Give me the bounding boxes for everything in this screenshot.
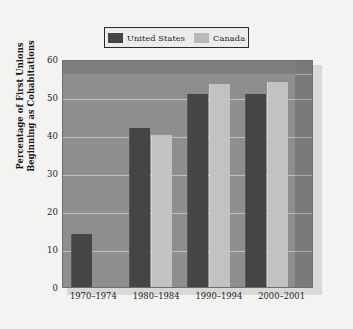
- legend-swatch-canada: [194, 33, 209, 43]
- y-axis-ticks: 60 50 40 30 20 10 0: [28, 55, 58, 295]
- legend-label-united-states: United States: [127, 33, 185, 43]
- bar-group-2000-2001: [244, 61, 288, 287]
- y-tick-50: 50: [47, 93, 58, 103]
- legend-label-canada: Canada: [213, 33, 245, 43]
- x-tick-1990-1994: 1990–1994: [191, 291, 246, 301]
- bar-united-states-1980-1984[interactable]: [129, 128, 150, 287]
- bar-groups: [63, 61, 295, 287]
- chart-legend: United States Canada: [104, 27, 249, 48]
- y-tick-20: 20: [47, 207, 58, 217]
- x-axis-ticks: 1970–1974 1980–1984 1990–1994 2000–2001: [62, 291, 313, 301]
- y-tick-40: 40: [47, 131, 58, 141]
- bar-group-1980-1984: [128, 61, 172, 287]
- plot-right-wall-panel: [295, 61, 312, 287]
- bar-united-states-1990-1994[interactable]: [187, 94, 208, 287]
- y-tick-10: 10: [47, 245, 58, 255]
- bar-canada-2000-2001[interactable]: [267, 82, 288, 287]
- y-tick-0: 0: [53, 283, 58, 293]
- y-tick-60: 60: [47, 55, 58, 65]
- y-tick-30: 30: [47, 169, 58, 179]
- bar-canada-1980-1984[interactable]: [151, 135, 172, 287]
- legend-item-united-states: United States: [108, 33, 185, 43]
- bar-canada-1990-1994[interactable]: [209, 84, 230, 287]
- bar-united-states-2000-2001[interactable]: [245, 94, 266, 287]
- y-axis-title-line1: Percentage of First Unions: [15, 6, 26, 206]
- legend-item-canada: Canada: [194, 33, 245, 43]
- x-tick-2000-2001: 2000–2001: [254, 291, 309, 301]
- chart-page: United States Canada Percentage of First…: [0, 0, 353, 329]
- legend-swatch-united-states: [108, 33, 123, 43]
- x-tick-1970-1974: 1970–1974: [66, 291, 121, 301]
- bar-united-states-1970-1974[interactable]: [71, 234, 92, 287]
- x-tick-1980-1984: 1980–1984: [129, 291, 184, 301]
- bar-group-1970-1974: [70, 61, 114, 287]
- plot-area: [62, 60, 313, 288]
- plot-area-wrapper: [62, 60, 317, 290]
- bar-group-1990-1994: [186, 61, 230, 287]
